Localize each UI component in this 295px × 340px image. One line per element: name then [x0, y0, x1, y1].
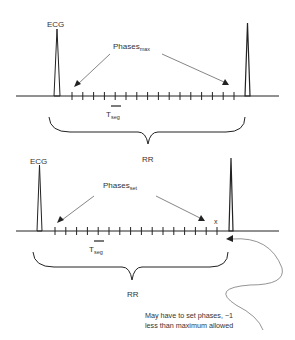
bottom-ecg-spike-left: [37, 165, 42, 231]
annotation-line-1: May have to set phases, ~1: [145, 311, 233, 320]
bottom-tseg-label: Tseg: [89, 245, 103, 255]
bottom-arrow-left: [62, 196, 94, 220]
top-panel: ECG Phasesmax Tseg RR: [16, 20, 279, 164]
bottom-arrowhead-right: [198, 215, 205, 221]
bottom-ecg-label: ECG: [30, 157, 47, 166]
annotation-line-2: less than maximum allowed: [145, 321, 233, 330]
bottom-arrowhead-left: [57, 216, 64, 223]
top-arrow-left: [78, 54, 110, 84]
top-ecg-spike-left: [54, 29, 60, 96]
bottom-arrow-right: [156, 196, 200, 218]
annotation-curvy-arrow: [226, 239, 283, 330]
top-ecg-spike-right: [245, 23, 250, 96]
annotation-arrowhead: [226, 235, 233, 242]
bottom-rr-brace: [33, 252, 228, 280]
ecg-phase-diagram: ECG Phasesmax Tseg RR ECG Phasesset x Ts…: [0, 0, 295, 340]
top-arrow-right: [162, 54, 224, 82]
bottom-rr-label: RR: [127, 290, 139, 299]
top-arrowhead-left: [74, 80, 81, 87]
bottom-x-marker: x: [214, 218, 218, 225]
bottom-phases-label: Phasesset: [103, 181, 137, 191]
top-phases-label: Phasesmax: [113, 42, 150, 52]
top-tseg-label: Tseg: [106, 110, 120, 120]
top-rr-label: RR: [142, 155, 154, 164]
bottom-panel: ECG Phasesset x Tseg RR May have to set …: [16, 157, 282, 330]
top-ecg-label: ECG: [47, 20, 64, 29]
top-rr-brace: [49, 117, 245, 144]
bottom-ecg-spike-right: [229, 158, 233, 231]
